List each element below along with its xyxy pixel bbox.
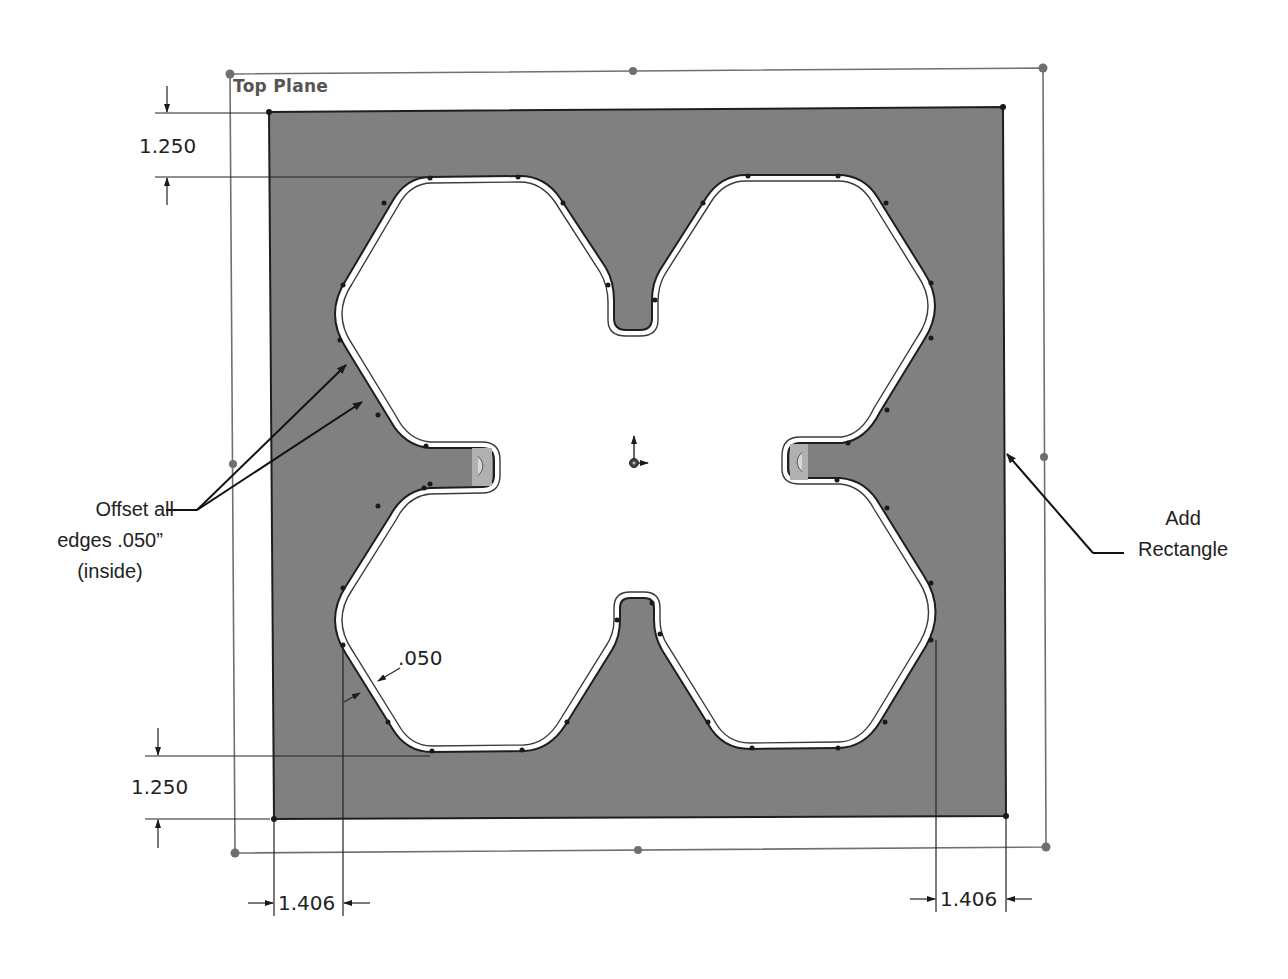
dimension-top-value[interactable]: 1.250 bbox=[139, 134, 196, 158]
sketch-canvas[interactable]: Top Plane 1.250 1.250 1.406 1.406 .050 O… bbox=[0, 0, 1288, 979]
dimension-bottom-value[interactable]: 1.250 bbox=[131, 775, 188, 799]
offset-callout: Offset all edges .050” (inside) bbox=[40, 494, 180, 587]
rectangle-callout-line2: Rectangle bbox=[1128, 534, 1238, 565]
rectangle-callout-leader bbox=[1007, 454, 1124, 553]
offset-callout-line3: (inside) bbox=[40, 556, 180, 587]
left-slot-cap bbox=[472, 448, 492, 486]
dimension-offset-value[interactable]: .050 bbox=[398, 646, 443, 670]
rectangle-callout-line1: Add bbox=[1128, 503, 1238, 534]
right-slot-cap bbox=[790, 444, 808, 480]
plane-label: Top Plane bbox=[233, 76, 328, 96]
offset-callout-line1: Offset all bbox=[40, 494, 180, 525]
dimension-left-value[interactable]: 1.406 bbox=[278, 891, 335, 915]
origin-icon[interactable] bbox=[630, 436, 649, 468]
dimension-right-value[interactable]: 1.406 bbox=[940, 887, 997, 911]
rectangle-callout: Add Rectangle bbox=[1128, 503, 1238, 565]
offset-callout-line2: edges .050” bbox=[40, 525, 180, 556]
